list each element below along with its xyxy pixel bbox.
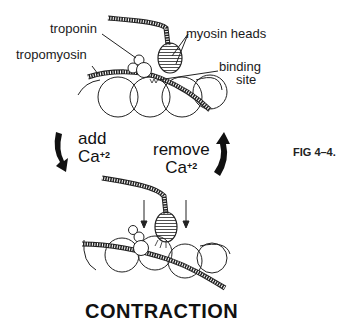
calcium-charge: +2 [187,161,197,171]
calcium-ion: Ca [165,158,187,177]
myosin-heads-label: myosin heads [186,27,266,41]
tropomyosin-label: tropomyosin [16,48,87,62]
figure-label: FIG 4–4. [293,146,336,158]
add-calcium-arrow [55,132,68,172]
remove-calcium-arrow [214,132,230,176]
calcium-charge: +2 [100,150,110,160]
contraction-figure [82,178,230,288]
calcium-ion: Ca [78,147,100,166]
tropomyosin-strand [88,72,210,110]
contraction-title: CONTRACTION [85,300,238,323]
remove-text: remove [153,141,210,159]
binding-site-label-line2: site [236,73,256,87]
troponin-label: troponin [50,22,97,36]
add-calcium-label: add Ca+2 [78,130,110,166]
add-text: add [78,130,110,148]
remove-calcium-label: remove Ca+2 [153,141,210,177]
